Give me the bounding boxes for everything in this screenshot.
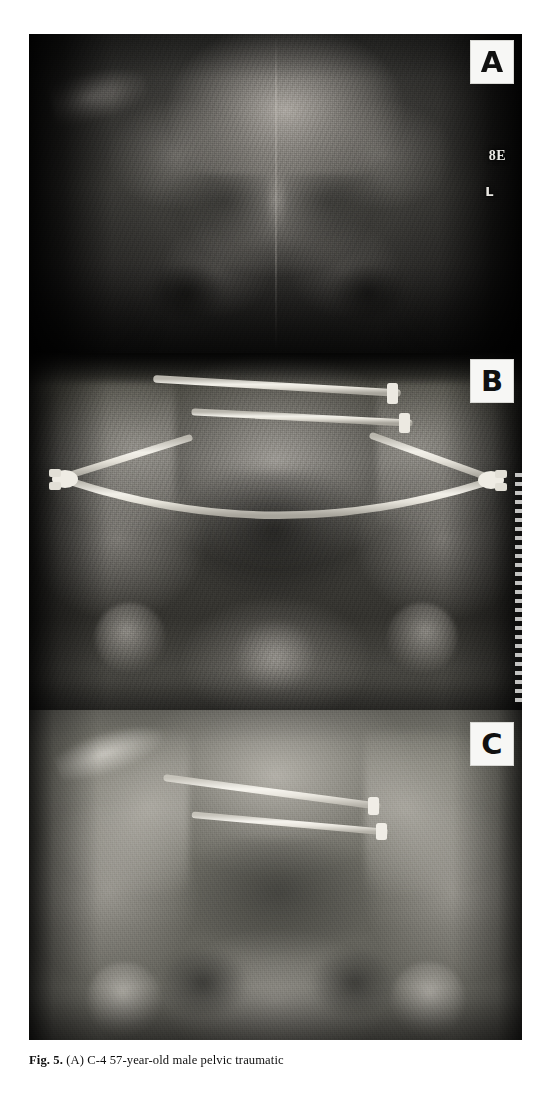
panel-label-c: C: [470, 722, 514, 766]
figure-image-block: 8E L A: [29, 34, 522, 1040]
femoral-head-left: [95, 603, 165, 673]
radiograph-film-c: [29, 710, 522, 1040]
sacrum-shadow: [181, 838, 377, 958]
iliac-wing-right: [377, 381, 517, 531]
obturator-foramen-right: [329, 262, 407, 324]
sacrum-shadow: [179, 471, 369, 601]
radiograph-panel-c: C: [29, 710, 522, 1040]
iliac-crest-shadow: [47, 61, 151, 129]
figure-caption-prefix: Fig. 5.: [29, 1053, 63, 1067]
femoral-head-right: [391, 962, 465, 1036]
obturator-foramen-right: [309, 946, 401, 1020]
femoral-head-right: [387, 603, 457, 673]
obturator-foramen-left: [147, 262, 225, 324]
figure-caption-text: (A) C-4 57-year-old male pelvic traumati…: [66, 1053, 284, 1067]
panel-label-a: A: [470, 40, 514, 84]
panel-label-b: B: [470, 359, 514, 403]
sacral-ala-shadow-right: [284, 174, 394, 244]
film-marker-8e: 8E: [489, 148, 506, 164]
figure-caption: Fig. 5. (A) C-4 57-year-old male pelvic …: [29, 1053, 525, 1069]
pubic-symphysis: [235, 621, 315, 691]
femoral-head-left: [87, 962, 161, 1036]
sacral-ala-shadow-left: [159, 174, 269, 244]
midline-shadow: [275, 34, 277, 353]
radiograph-film-b: [29, 353, 522, 710]
radiograph-panel-a: 8E L A: [29, 34, 522, 353]
radiograph-film-a: [29, 34, 522, 353]
obturator-foramen-left: [157, 946, 249, 1020]
iliac-wing-left: [39, 730, 189, 895]
film-serrated-edge: [515, 473, 522, 703]
radiograph-panel-b: B: [29, 353, 522, 710]
film-marker-l: L: [485, 184, 494, 199]
iliac-wing-left: [35, 381, 175, 531]
